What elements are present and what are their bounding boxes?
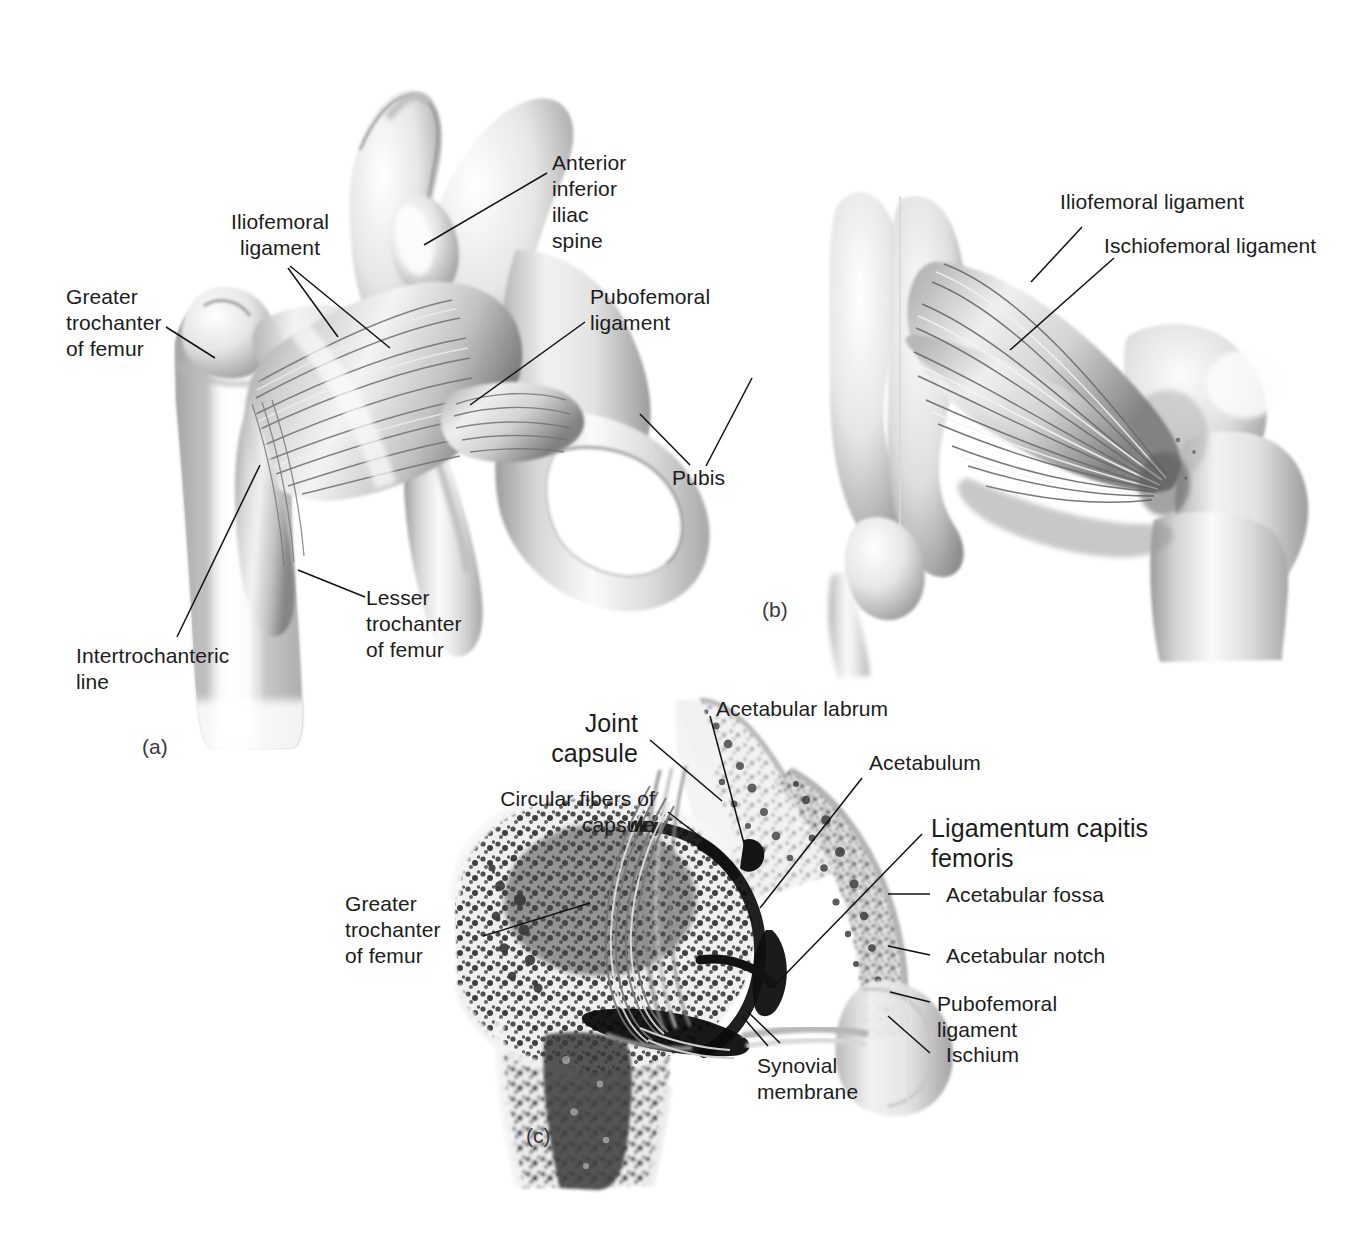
label-pubofemoral-ligament-c: Pubofemoral ligament [937,991,1137,1043]
label-lesser-trochanter-of-femur: Lesser trochanter of femur [366,585,516,663]
label-pubis: Pubis [672,465,752,491]
panel-tag-a: (a) [142,735,168,759]
label-synovial-membrane: Synovial membrane [757,1053,917,1105]
label-ischiofemoral-ligament: Ischiofemoral ligament [1104,233,1370,259]
label-acetabulum: Acetabulum [869,750,1049,776]
label-acetabular-labrum: Acetabular labrum [716,696,966,722]
label-ischium: Ischium [946,1042,1086,1068]
label-pubofemoral-ligament-a: Pubofemoral ligament [590,284,770,336]
label-intertrochanteric-line: Intertrochanteric line [76,643,296,695]
label-anterior-inferior-iliac-spine: Anterior inferior iliac spine [552,150,702,254]
label-iliofemoral-ligament-a: Iliofemoral ligament [200,209,360,261]
anatomy-figure: Iliofemoral ligament Anterior inferior i… [0,0,1370,1241]
panel-b-artwork [829,192,1309,678]
label-circular-fibers-of-capsule: Circular fibers of capsule [455,786,655,838]
label-joint-capsule: Joint capsule [460,708,638,768]
label-greater-trochanter-of-femur-c: Greater trochanter of femur [345,891,505,969]
panel-tag-b: (b) [762,598,788,622]
label-acetabular-fossa: Acetabular fossa [946,882,1146,908]
label-ligamentum-capitis-femoris: Ligamentum capitis femoris [931,813,1181,873]
panel-tag-c: (c) [526,1124,551,1148]
label-iliofemoral-ligament-b: Iliofemoral ligament [1060,189,1330,215]
label-acetabular-notch: Acetabular notch [946,943,1146,969]
label-greater-trochanter-of-femur-a: Greater trochanter of femur [66,284,236,362]
